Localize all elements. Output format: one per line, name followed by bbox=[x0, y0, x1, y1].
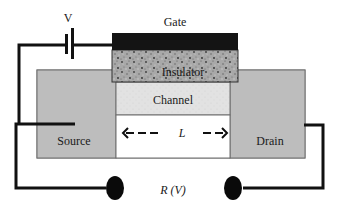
insulator-label: Insulator bbox=[162, 65, 205, 79]
voltage-label: V bbox=[64, 11, 73, 25]
gate-label: Gate bbox=[164, 15, 187, 29]
battery-icon bbox=[65, 28, 74, 59]
right-terminal[interactable] bbox=[224, 176, 242, 200]
drain-label: Drain bbox=[256, 134, 283, 148]
resistance-label: R (V) bbox=[159, 183, 186, 197]
length-region bbox=[116, 115, 230, 158]
source-label: Source bbox=[57, 134, 90, 148]
gate-electrode bbox=[112, 33, 238, 50]
fet-diagram: V Gate Insulator Channel Source Drain L … bbox=[0, 0, 339, 210]
channel-label: Channel bbox=[153, 93, 194, 107]
length-label: L bbox=[178, 126, 186, 140]
left-terminal[interactable] bbox=[106, 176, 124, 200]
